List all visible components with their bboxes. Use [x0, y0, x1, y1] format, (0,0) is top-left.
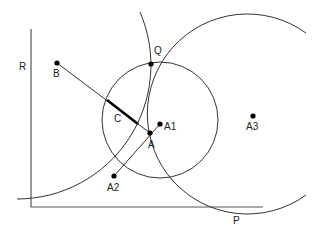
point-a	[147, 130, 152, 135]
point-a1	[157, 121, 162, 126]
label-q: Q	[154, 46, 162, 56]
point-b	[54, 60, 59, 65]
label-a3: A3	[246, 122, 258, 132]
point-a2	[111, 173, 116, 178]
label-a2: A2	[107, 183, 119, 193]
label-b: B	[53, 69, 60, 79]
diagram-canvas	[0, 0, 322, 236]
right-large-arc	[147, 14, 306, 214]
label-a1: A1	[164, 122, 176, 132]
point-q	[148, 61, 153, 66]
point-a3	[250, 113, 255, 118]
label-p: P	[233, 216, 240, 226]
left-large-arc	[17, 12, 151, 199]
label-r: R	[19, 62, 26, 72]
label-c: C	[114, 114, 121, 124]
segment-c	[107, 100, 138, 124]
label-a: A	[148, 140, 155, 150]
